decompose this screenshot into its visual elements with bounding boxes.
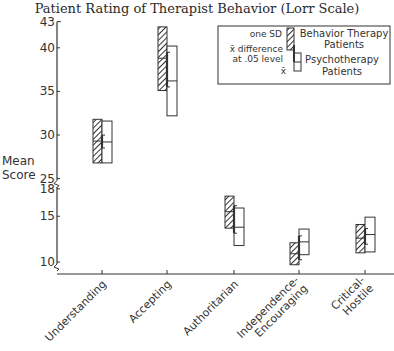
- category-group: [290, 229, 309, 265]
- legend-psycho-label: Psychotherapy: [305, 54, 379, 65]
- y-tick-label: 40: [40, 41, 55, 55]
- category-group: [158, 27, 177, 116]
- legend-behavior-label: Behavior Therapy: [300, 28, 389, 39]
- x-category-label: Accepting: [126, 278, 174, 326]
- legend-one-sd: one SD: [250, 29, 282, 39]
- legend-x-bar: x̄: [281, 66, 287, 76]
- y-axis-label: Score: [2, 168, 36, 182]
- legend-hatched-swatch: [287, 28, 294, 50]
- y-tick-label: 43: [40, 15, 55, 29]
- legend-x-diff: x̄ difference: [230, 44, 284, 54]
- legend: one SDx̄ differenceat .05 levelx̄Behavio…: [218, 26, 390, 84]
- legend-psycho-label: Patients: [322, 66, 362, 77]
- category-group: [356, 217, 375, 253]
- chart-plot: 4340353025181510MeanScore one SDx̄ diffe…: [0, 0, 394, 351]
- x-category-label: Authoritarian: [181, 278, 241, 338]
- y-tick-label: 18: [40, 182, 55, 196]
- y-tick-label: 10: [40, 255, 55, 269]
- category-group: [93, 119, 112, 163]
- svg-text:Accepting: Accepting: [126, 278, 174, 326]
- x-category-label: Independence-Encouraging: [234, 273, 310, 349]
- category-group: [225, 196, 244, 245]
- y-tick-label: 30: [40, 128, 55, 142]
- x-category-label: Understanding: [42, 278, 109, 345]
- legend-behavior-label: Patients: [324, 39, 364, 50]
- y-tick-label: 35: [40, 84, 55, 98]
- svg-text:Understanding: Understanding: [42, 278, 109, 345]
- legend-x-diff: at .05 level: [233, 54, 283, 64]
- x-axis-labels: UnderstandingAcceptingAuthoritarianIndep…: [42, 273, 376, 349]
- svg-text:Authoritarian: Authoritarian: [181, 278, 241, 338]
- x-category-label: Critical-Hostile: [328, 273, 376, 321]
- y-tick-label: 15: [40, 209, 55, 223]
- y-axis-label: Mean: [2, 154, 35, 168]
